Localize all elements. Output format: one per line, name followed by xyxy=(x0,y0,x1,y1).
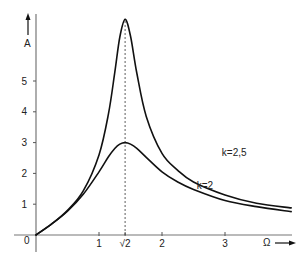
x-tick-label: 3 xyxy=(222,238,228,249)
x-tick-label: 1 xyxy=(96,238,102,249)
x-arrow-icon xyxy=(289,241,296,246)
y-tick-label: 3 xyxy=(21,137,27,148)
annotations: k=2,5k=2 xyxy=(197,147,247,190)
x-tick-label: 2 xyxy=(159,238,165,249)
y-tick-label: 2 xyxy=(21,168,27,179)
x-tick-label: √2 xyxy=(120,238,131,249)
y-axis-label: A xyxy=(24,38,31,49)
curves xyxy=(36,19,291,235)
axes: A 0 Ω xyxy=(14,13,296,252)
series-label: k=2 xyxy=(197,180,214,191)
y-tick-label: 5 xyxy=(21,76,27,87)
curve-k-2-5 xyxy=(36,19,291,235)
resonance-chart: A 0 Ω 1√223 12345 k=2,5k=2 xyxy=(0,0,305,269)
x-axis-label: Ω xyxy=(263,237,271,248)
y-tick-label: 4 xyxy=(21,106,27,117)
y-arrow-icon xyxy=(26,13,31,20)
y-ticks: 12345 xyxy=(21,76,36,210)
series-label: k=2,5 xyxy=(222,147,247,158)
origin-label: 0 xyxy=(24,235,30,246)
y-tick-label: 1 xyxy=(21,199,27,210)
